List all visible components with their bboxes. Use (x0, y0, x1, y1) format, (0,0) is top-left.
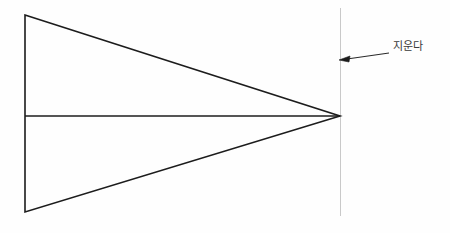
drawing-canvas: 지운다 (0, 0, 450, 233)
left-arrow-icon (339, 56, 350, 62)
annotation-leader-line (347, 53, 389, 59)
annotation-label-erase: 지운다 (393, 41, 424, 52)
line-drawing-svg (0, 0, 450, 233)
wedge-triangle (25, 15, 340, 212)
